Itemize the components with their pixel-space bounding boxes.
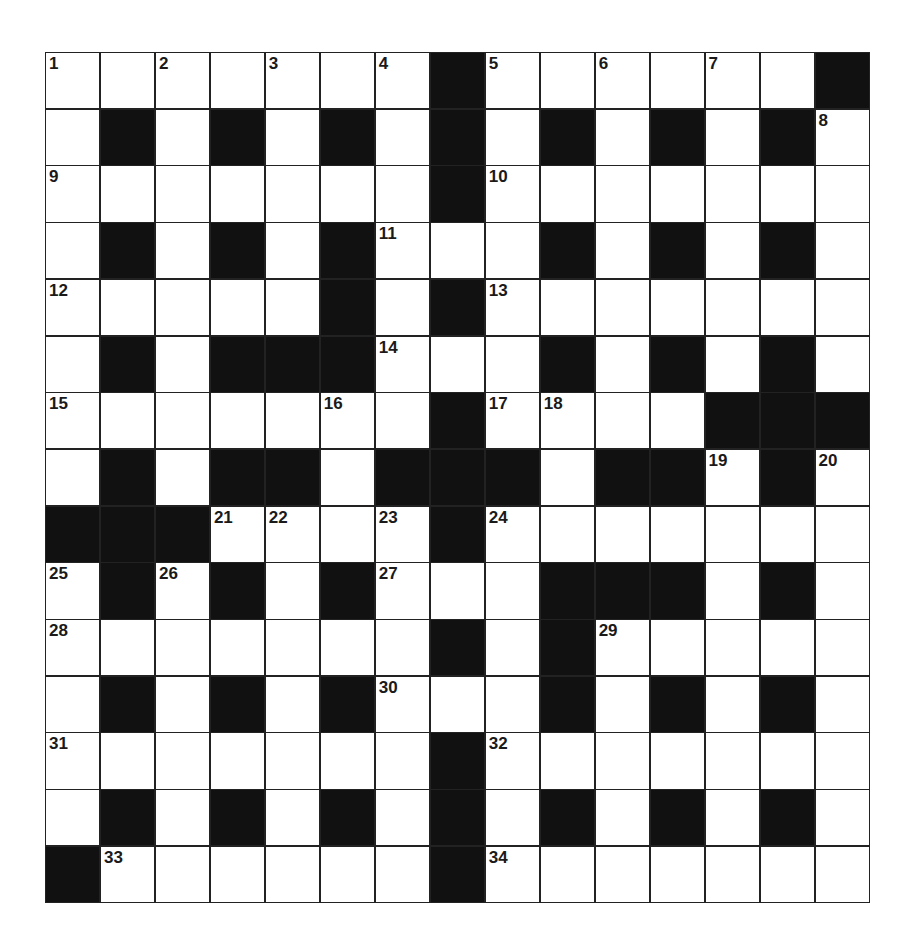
grid-cell[interactable] [156, 337, 209, 392]
grid-cell[interactable] [651, 847, 704, 902]
grid-cell[interactable] [761, 620, 814, 675]
grid-cell[interactable]: 3 [266, 53, 319, 108]
grid-cell[interactable]: 21 [211, 507, 264, 562]
grid-cell[interactable] [816, 790, 869, 845]
grid-cell[interactable] [706, 166, 759, 221]
grid-cell[interactable] [596, 393, 649, 448]
grid-cell[interactable] [596, 790, 649, 845]
grid-cell[interactable] [266, 393, 319, 448]
grid-cell[interactable]: 34 [486, 847, 539, 902]
grid-cell[interactable]: 33 [101, 847, 154, 902]
grid-cell[interactable]: 18 [541, 393, 594, 448]
grid-cell[interactable] [596, 110, 649, 165]
grid-cell[interactable] [816, 280, 869, 335]
grid-cell[interactable]: 12 [46, 280, 99, 335]
grid-cell[interactable] [321, 450, 374, 505]
grid-cell[interactable] [541, 507, 594, 562]
grid-cell[interactable] [596, 337, 649, 392]
grid-cell[interactable] [266, 790, 319, 845]
grid-cell[interactable] [541, 847, 594, 902]
grid-cell[interactable] [101, 53, 154, 108]
grid-cell[interactable] [266, 280, 319, 335]
grid-cell[interactable] [156, 110, 209, 165]
grid-cell[interactable] [486, 337, 539, 392]
grid-cell[interactable] [761, 507, 814, 562]
grid-cell[interactable] [706, 110, 759, 165]
grid-cell[interactable] [321, 733, 374, 788]
grid-cell[interactable] [706, 677, 759, 732]
grid-cell[interactable] [156, 677, 209, 732]
grid-cell[interactable]: 13 [486, 280, 539, 335]
grid-cell[interactable]: 1 [46, 53, 99, 108]
grid-cell[interactable] [266, 110, 319, 165]
grid-cell[interactable]: 9 [46, 166, 99, 221]
grid-cell[interactable] [486, 620, 539, 675]
grid-cell[interactable] [816, 507, 869, 562]
grid-cell[interactable] [596, 677, 649, 732]
grid-cell[interactable] [211, 847, 264, 902]
grid-cell[interactable] [101, 280, 154, 335]
grid-cell[interactable]: 26 [156, 563, 209, 618]
grid-cell[interactable]: 30 [376, 677, 429, 732]
grid-cell[interactable] [761, 53, 814, 108]
grid-cell[interactable] [266, 847, 319, 902]
grid-cell[interactable]: 29 [596, 620, 649, 675]
grid-cell[interactable] [46, 450, 99, 505]
grid-cell[interactable] [211, 733, 264, 788]
grid-cell[interactable]: 8 [816, 110, 869, 165]
grid-cell[interactable] [156, 393, 209, 448]
grid-cell[interactable]: 6 [596, 53, 649, 108]
grid-cell[interactable]: 7 [706, 53, 759, 108]
grid-cell[interactable] [266, 223, 319, 278]
grid-cell[interactable] [46, 677, 99, 732]
grid-cell[interactable] [816, 223, 869, 278]
grid-cell[interactable] [101, 620, 154, 675]
grid-cell[interactable] [266, 677, 319, 732]
grid-cell[interactable] [321, 620, 374, 675]
grid-cell[interactable] [211, 393, 264, 448]
grid-cell[interactable]: 24 [486, 507, 539, 562]
grid-cell[interactable] [266, 620, 319, 675]
grid-cell[interactable] [211, 166, 264, 221]
grid-cell[interactable] [651, 166, 704, 221]
grid-cell[interactable] [156, 166, 209, 221]
grid-cell[interactable] [46, 110, 99, 165]
grid-cell[interactable]: 14 [376, 337, 429, 392]
grid-cell[interactable]: 5 [486, 53, 539, 108]
grid-cell[interactable] [816, 166, 869, 221]
grid-cell[interactable] [706, 733, 759, 788]
grid-cell[interactable] [321, 507, 374, 562]
grid-cell[interactable] [376, 620, 429, 675]
grid-cell[interactable] [596, 280, 649, 335]
grid-cell[interactable] [706, 507, 759, 562]
grid-cell[interactable] [706, 620, 759, 675]
grid-cell[interactable]: 11 [376, 223, 429, 278]
grid-cell[interactable] [321, 847, 374, 902]
grid-cell[interactable] [101, 733, 154, 788]
grid-cell[interactable] [706, 337, 759, 392]
grid-cell[interactable] [486, 110, 539, 165]
grid-cell[interactable] [431, 337, 484, 392]
grid-cell[interactable] [706, 847, 759, 902]
grid-cell[interactable] [376, 733, 429, 788]
grid-cell[interactable] [816, 620, 869, 675]
grid-cell[interactable] [376, 280, 429, 335]
grid-cell[interactable] [431, 223, 484, 278]
grid-cell[interactable] [46, 790, 99, 845]
grid-cell[interactable]: 23 [376, 507, 429, 562]
grid-cell[interactable] [596, 166, 649, 221]
grid-cell[interactable] [706, 563, 759, 618]
grid-cell[interactable] [101, 393, 154, 448]
grid-cell[interactable] [486, 563, 539, 618]
grid-cell[interactable] [816, 677, 869, 732]
grid-cell[interactable] [541, 450, 594, 505]
grid-cell[interactable] [376, 166, 429, 221]
grid-cell[interactable]: 20 [816, 450, 869, 505]
grid-cell[interactable] [816, 563, 869, 618]
grid-cell[interactable] [541, 53, 594, 108]
grid-cell[interactable] [156, 620, 209, 675]
grid-cell[interactable] [376, 847, 429, 902]
grid-cell[interactable]: 27 [376, 563, 429, 618]
grid-cell[interactable] [706, 280, 759, 335]
grid-cell[interactable] [651, 620, 704, 675]
